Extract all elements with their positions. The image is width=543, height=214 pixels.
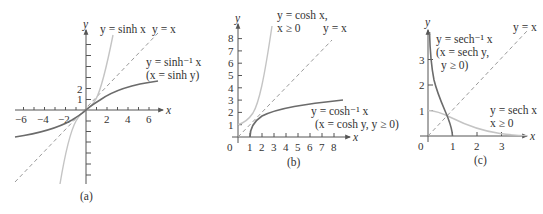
panel-b-ytick: 1 [228, 119, 234, 131]
panel-b-cosh-domain-label: x ≥ 0 [277, 22, 301, 34]
panel-c-asech-domain-label: y ≥ 0) [441, 59, 469, 72]
panel-b-xtick: 1 [247, 141, 253, 153]
figure: −6 −4 −2 2 4 6 1 2 x y y = sinh x y = x … [0, 0, 543, 214]
panel-b-y-label: y [234, 12, 241, 25]
panel-a-x-label: x [165, 104, 172, 116]
panel-a-asinh-label: y = sinh⁻¹ x [146, 56, 202, 69]
panel-b-y-ticks [238, 39, 242, 125]
panel-b-cosh-label: y = cosh x, [277, 9, 328, 22]
panel-b-ytick: 3 [228, 94, 234, 106]
panel-a-xtick: 6 [146, 113, 152, 125]
panel-b-x-ticks [250, 133, 334, 137]
panel-b-xtick: 7 [319, 141, 325, 153]
panel-b-xtick: 8 [331, 141, 337, 153]
panel-b-xtick: 2 [259, 141, 265, 153]
panel-b-xtick: 6 [307, 141, 313, 153]
panel-b-caption: (b) [287, 156, 301, 169]
panel-b-acosh-label: y = cosh⁻¹ x [311, 105, 368, 118]
panel-c-x-label: x [529, 130, 536, 142]
panel-c-sech-domain-label: x ≥ 0 [490, 117, 514, 129]
panel-b-ytick: 7 [228, 45, 234, 57]
panel-b-xtick: 5 [295, 141, 301, 153]
panel-c-origin-label: 0 [418, 140, 424, 152]
panel-a-y-label: y [82, 18, 89, 31]
panel-b-cosh-curve [238, 26, 272, 125]
panel-c-xtick: 2 [474, 140, 480, 152]
panel-a-ytick: 2 [77, 83, 83, 95]
panel-b-ytick: 2 [228, 106, 234, 118]
panel-b-ytick: 8 [228, 32, 234, 44]
panel-a-xtick: −2 [58, 113, 70, 125]
panel-b-identity-label: y = x [323, 22, 347, 35]
panel-a-identity-label: y = x [152, 23, 176, 36]
panel-b-ytick: 4 [228, 82, 234, 94]
panel-c-xtick: 3 [499, 140, 505, 152]
panel-b-ytick: 6 [228, 57, 234, 69]
panel-a-caption: (a) [80, 190, 93, 203]
panel-b-x-label: x [352, 131, 359, 143]
panel-b-xtick: 3 [271, 141, 277, 153]
panel-a-asinh-sub-label: (x = sinh y) [146, 69, 200, 82]
panel-a-xtick: −4 [37, 113, 49, 125]
panel-c-identity-label: y = x [513, 21, 537, 34]
panel-c-sech-label: y = sech x [490, 104, 537, 117]
panel-a-xtick: 2 [104, 113, 110, 125]
panel-c-asech-sub-label: (x = sech y, [436, 46, 489, 59]
panel-a-xtick: 4 [125, 113, 131, 125]
panel-c: 0 1 2 3 1 2 3 x y y = sech⁻¹ x (x = sech… [418, 16, 537, 167]
panel-b-ytick: 5 [228, 69, 234, 81]
panel-b-xtick: 4 [283, 141, 289, 153]
panel-c-asech-label: y = sech⁻¹ x [436, 33, 493, 46]
panel-c-ytick: 3 [419, 54, 425, 66]
panel-c-y-label: y [424, 16, 431, 29]
panel-b: 0 1 2 3 4 5 6 7 8 1 2 3 4 5 6 7 8 x y y … [227, 9, 399, 169]
panel-c-caption: (c) [474, 154, 487, 167]
panel-a-sinh-label: y = sinh x [100, 23, 146, 36]
panel-b-origin-label: 0 [227, 141, 233, 153]
panel-b-acosh-sub-label: (x = cosh y, y ≥ 0) [315, 118, 399, 131]
panel-c-xtick: 1 [450, 140, 456, 152]
panel-c-ytick: 2 [419, 79, 425, 91]
panel-c-ytick: 1 [419, 105, 425, 117]
panel-a: −6 −4 −2 2 4 6 1 2 x y y = sinh x y = x … [15, 18, 202, 203]
panel-a-xtick: −6 [15, 113, 27, 125]
